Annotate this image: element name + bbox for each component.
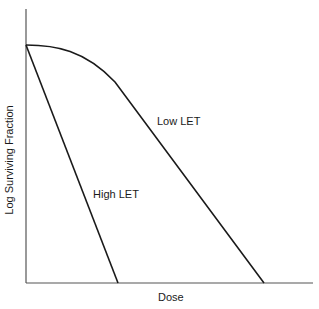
low-let-curve [26, 45, 264, 283]
x-axis-label: Dose [158, 291, 184, 303]
low-let-label: Low LET [157, 115, 201, 127]
high-let-curve [26, 45, 118, 283]
high-let-label: High LET [93, 188, 139, 200]
y-axis-label: Log Surviving Fraction [3, 105, 15, 214]
survival-curve-chart: Low LET High LET Dose Log Surviving Frac… [0, 0, 319, 309]
